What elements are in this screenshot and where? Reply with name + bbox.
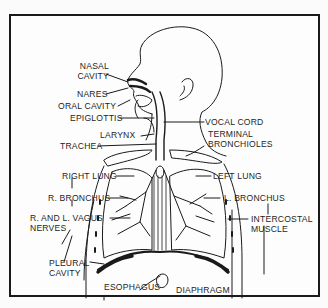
- label-line: NERVES: [30, 223, 103, 233]
- label-epiglottis: EPIGLOTTIS: [70, 113, 123, 123]
- label-line: TERMINAL: [208, 129, 273, 139]
- label-line: INTERCOSTAL: [251, 214, 313, 224]
- label-line: BRONCHIOLES: [208, 139, 273, 149]
- label-trachea: TRACHEA: [60, 141, 102, 151]
- label-oral-cavity: ORAL CAVITY: [58, 101, 116, 111]
- left-lung: [170, 169, 226, 258]
- label-r-bronchus: R. BRONCHUS: [48, 193, 110, 203]
- label-esophagus: ESOPHAGUS: [104, 282, 160, 292]
- label-larynx: LARYNX: [100, 130, 135, 140]
- label-line: R. AND L. VAGUS: [30, 213, 103, 223]
- label-pleural-cavity: PLEURAL CAVITY: [49, 258, 90, 278]
- clavicle-left: [170, 150, 222, 163]
- clavicle-right: [104, 150, 152, 166]
- label-l-bronchus: L. BRONCHUS: [224, 193, 285, 203]
- label-line: NASAL: [62, 61, 109, 71]
- label-left-lung: LEFT LUNG: [213, 171, 262, 181]
- label-nares: NARES: [77, 89, 108, 99]
- ear: [180, 79, 193, 100]
- label-vagus-nerves: R. AND L. VAGUS NERVES: [30, 213, 103, 233]
- label-line: CAVITY: [62, 71, 109, 81]
- label-vocal-cord: VOCAL CORD: [205, 117, 264, 127]
- label-diaphragm: DIAPHRAGM: [176, 285, 230, 295]
- label-right-lung: RIGHT LUNG: [62, 171, 117, 181]
- label-nasal-cavity: NASAL CAVITY: [62, 61, 109, 81]
- label-intercostal-muscle: INTERCOSTAL MUSCLE: [251, 214, 313, 234]
- label-line: MUSCLE: [251, 224, 313, 234]
- label-terminal-bronchioles: TERMINAL BRONCHIOLES: [208, 129, 273, 149]
- label-line: PLEURAL: [49, 258, 90, 268]
- right-lung: [102, 169, 152, 258]
- trachea: [152, 92, 165, 160]
- label-line: CAVITY: [49, 268, 90, 278]
